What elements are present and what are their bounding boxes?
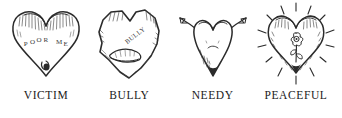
panel-peaceful: PEACEFUL	[256, 0, 336, 102]
victim-heart-icon: POORME	[6, 0, 86, 92]
panel-bully: BULLY BULLY	[89, 0, 169, 102]
caption-peaceful: PEACEFUL	[265, 90, 328, 102]
panel-needy: NEEDY	[173, 0, 253, 102]
heart-archetypes-figure: POORME VICTIM	[0, 0, 342, 118]
panel-row: POORME VICTIM	[0, 0, 342, 118]
panel-victim: POORME VICTIM	[6, 0, 86, 102]
caption-victim: VICTIM	[24, 90, 69, 102]
peaceful-heart-icon	[256, 0, 336, 92]
needy-heart-icon	[173, 0, 253, 92]
bully-heart-icon: BULLY	[89, 0, 169, 92]
caption-needy: NEEDY	[192, 90, 234, 102]
caption-bully: BULLY	[109, 90, 149, 102]
